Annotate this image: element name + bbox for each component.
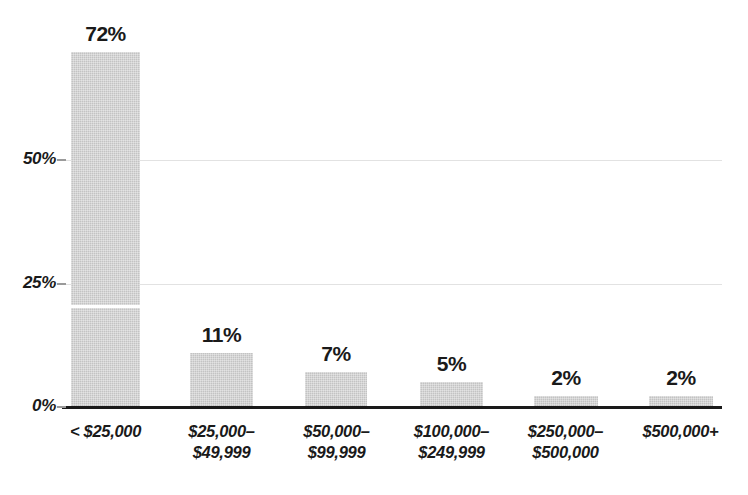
bar-group: 72%: [71, 52, 140, 407]
category-label-line1: $100,000–: [397, 421, 506, 442]
category-label: $500,000+: [626, 421, 735, 442]
category-label: $100,000– $249,999: [397, 421, 506, 463]
bar-value-label: 72%: [71, 22, 140, 46]
bar[interactable]: [305, 372, 367, 407]
category-label-line2: $249,999: [397, 442, 506, 463]
y-tick-dash: [57, 283, 66, 285]
bar-group: 7%: [305, 372, 367, 407]
bar-value-label: 2%: [534, 366, 598, 390]
category-label-line2: $500,000: [511, 442, 620, 463]
bar[interactable]: [71, 52, 140, 407]
gridline-25: [62, 284, 722, 285]
bar-value-label: 2%: [649, 366, 713, 390]
gridline-50: [62, 160, 722, 161]
bar[interactable]: [420, 382, 483, 407]
y-tick-label: 50%: [4, 149, 56, 169]
category-label: $25,000– $49,999: [167, 421, 276, 463]
category-label-line1: $25,000–: [167, 421, 276, 442]
category-label: $250,000– $500,000: [511, 421, 620, 463]
y-tick-label: 0%: [4, 396, 56, 416]
category-label-line1: < $25,000: [51, 421, 160, 442]
category-label: < $25,000: [51, 421, 160, 442]
category-label-line2: $99,999: [282, 442, 391, 463]
bar-value-label: 5%: [420, 352, 483, 376]
bar[interactable]: [190, 353, 253, 407]
category-label-line1: $250,000–: [511, 421, 620, 442]
category-label-line1: $500,000+: [626, 421, 735, 442]
bar-group: 11%: [190, 353, 253, 407]
y-tick-dash: [57, 159, 66, 161]
bar-value-label: 7%: [305, 342, 367, 366]
bar-group: 5%: [420, 382, 483, 407]
bar-value-label: 11%: [190, 323, 253, 347]
bar-chart: 72% 11% 7% 5% 2% 2%: [0, 0, 748, 495]
x-axis-line: [62, 406, 722, 409]
plot-area: 72% 11% 7% 5% 2% 2%: [0, 0, 748, 495]
bar-seam-artifact: [71, 305, 140, 308]
category-label: $50,000– $99,999: [282, 421, 391, 463]
category-label-line1: $50,000–: [282, 421, 391, 442]
category-label-line2: $49,999: [167, 442, 276, 463]
y-tick-label: 25%: [4, 273, 56, 293]
y-tick-dash: [57, 406, 66, 408]
